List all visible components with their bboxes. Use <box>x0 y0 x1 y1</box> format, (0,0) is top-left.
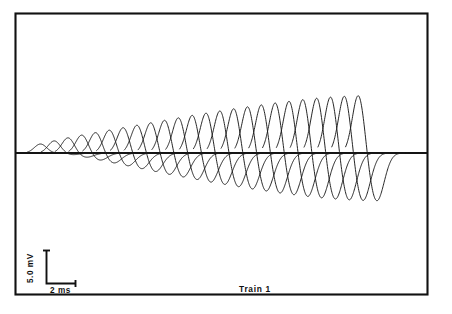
figure-container: 5.0 mV 2 ms Train 1 <box>0 0 452 314</box>
scale-bar <box>47 251 76 284</box>
scale-bar-vertical-label: 5.0 mV <box>26 253 35 283</box>
waveform-trace <box>346 96 407 201</box>
figure-caption: Train 1 <box>239 284 271 294</box>
electrophysiology-plot: 5.0 mV 2 ms Train 1 <box>0 0 452 314</box>
scale-bar-horizontal-label: 2 ms <box>50 286 71 295</box>
waveform-trace-group <box>27 96 407 201</box>
scale-bar-group <box>43 251 76 288</box>
